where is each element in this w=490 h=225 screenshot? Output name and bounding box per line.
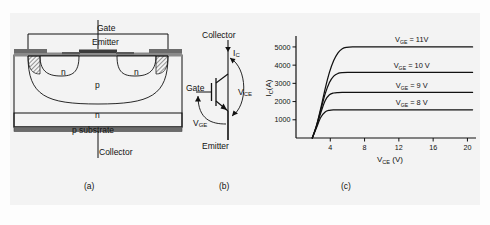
x-tick-label-16: 16 (429, 143, 437, 152)
caption-b: (b) (219, 181, 229, 191)
y-tick-label-1000: 1000 (275, 115, 291, 124)
x-tick-label-8: 8 (363, 143, 367, 152)
n-source-left-label: n (61, 68, 66, 77)
vge-arc-arrow (195, 96, 201, 102)
ic-arrow-head (225, 47, 231, 52)
y-tick-label-3000: 3000 (275, 79, 291, 88)
symbol-gate-label: Gate (186, 84, 204, 93)
vce-arc-arrow-top (230, 58, 236, 64)
symbol-upper-slant (216, 74, 228, 83)
emitter-metal-left (14, 49, 47, 53)
chart-axes (296, 36, 476, 138)
y-tick-label-4000: 4000 (275, 61, 291, 70)
figure-igbt: Gate Emitter n n p n p substrate Collect… (0, 0, 490, 225)
y-axis-tick-labels: 10002000300040005000 (275, 43, 291, 125)
source-contact-left (62, 52, 80, 54)
ic-label: IC (233, 49, 240, 58)
n-source-right-label: n (134, 68, 139, 77)
x-tick-label-4: 4 (328, 143, 332, 152)
collector-label-a: Collector (99, 148, 133, 157)
y-axis-title: IC(A) (264, 79, 274, 96)
chart-curves (312, 47, 472, 138)
x-axis-tick-labels: 48121620 (328, 143, 471, 152)
vge-label: VGE (193, 119, 207, 128)
output-characteristics-chart: 10002000300040005000 48121620 VGE = 11VV… (262, 30, 482, 170)
emitter-arrow-head (221, 104, 228, 111)
gate-label-a: Gate (97, 24, 115, 33)
y-tick-label-2000: 2000 (275, 97, 291, 106)
vce-label: VCE (238, 88, 252, 97)
caption-c: (c) (341, 181, 351, 191)
caption-a: (a) (84, 181, 94, 191)
x-axis-title: VCE (V) (377, 155, 403, 165)
curve-label-2: VGE = 9 V (396, 81, 428, 91)
curve-vge-10-v (312, 72, 472, 138)
x-tick-label-20: 20 (463, 143, 471, 152)
p-substrate-label: p substrate (72, 126, 114, 135)
curve-label-3: VGE = 8 V (396, 98, 428, 108)
symbol-collector-label: Collector (202, 31, 236, 40)
x-tick-label-12: 12 (395, 143, 403, 152)
curve-label-0: VGE = 11V (395, 35, 429, 45)
n-drift-label: n (95, 111, 100, 120)
emitter-metal-right (149, 49, 182, 53)
y-tick-label-5000: 5000 (275, 43, 291, 52)
curve-label-1: VGE = 10 V (394, 61, 430, 71)
emitter-label-a: Emitter (92, 38, 119, 47)
gate-electrode (79, 50, 117, 54)
curve-vge-8-v (312, 110, 472, 138)
curve-vge-9-v (312, 92, 472, 138)
source-contact-right (116, 52, 134, 54)
symbol-emitter-label: Emitter (202, 142, 229, 151)
p-body-label: p (95, 81, 100, 90)
